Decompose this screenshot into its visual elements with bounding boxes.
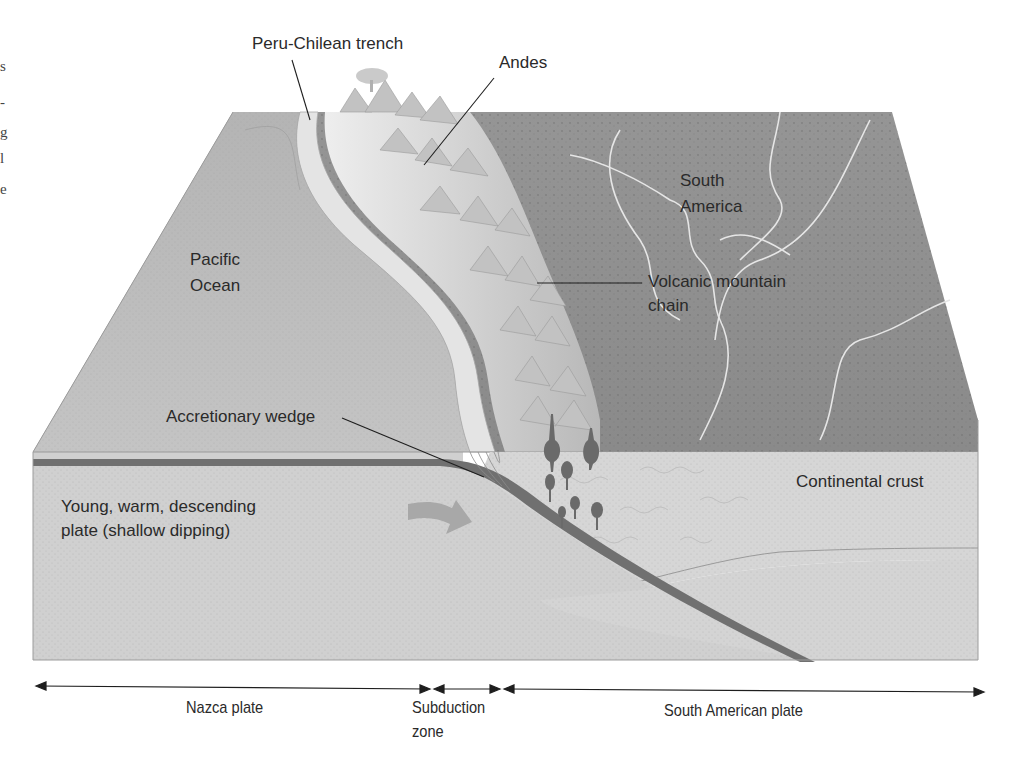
label-south-american-plate: South American plate [664,701,803,721]
margin-fragment: e [0,181,7,197]
label-nazca-plate: Nazca plate [186,698,263,718]
plate-extent-bars [36,682,984,696]
label-south-america-line1: South [680,171,724,191]
margin-fragment: g [0,124,8,140]
margin-fragment: s [0,58,6,74]
label-andes: Andes [499,53,547,73]
label-pacific-ocean-line2: Ocean [190,276,240,296]
subduction-diagram [0,0,1011,778]
label-descending-plate-line1: Young, warm, descending [61,497,256,517]
label-accretionary-wedge: Accretionary wedge [166,407,315,427]
label-continental-crust: Continental crust [796,472,924,492]
label-subduction-zone-line2: zone [412,722,444,742]
label-south-america-line2: America [680,197,742,217]
margin-fragment: - [0,94,5,110]
label-volcanic-mountain-chain-line1: Volcanic mountain [648,272,786,292]
label-volcanic-mountain-chain-line2: chain [648,296,689,316]
label-subduction-zone-line1: Subduction [412,698,485,718]
margin-fragment: l [0,150,4,166]
label-peru-chilean-trench: Peru-Chilean trench [252,34,403,54]
label-pacific-ocean-line1: Pacific [190,250,240,270]
label-descending-plate-line2: plate (shallow dipping) [61,521,230,541]
trench-leader [292,60,310,120]
